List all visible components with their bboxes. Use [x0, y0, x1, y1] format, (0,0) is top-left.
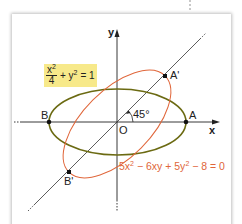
- x-axis-label: x: [209, 125, 215, 136]
- coordinate-diagram: [0, 0, 242, 224]
- y-axis-label: y: [108, 27, 114, 38]
- angle-label: 45°: [133, 109, 150, 120]
- point-A: [184, 120, 189, 125]
- fraction: x2 4: [46, 65, 57, 86]
- label-A-prime: A': [170, 70, 179, 81]
- label-B-prime: B': [64, 176, 73, 187]
- equation-ellipse-2: 5x2 − 6xy + 5y2 − 8 = 0: [119, 160, 225, 172]
- origin-label: O: [119, 125, 128, 136]
- label-B: B: [41, 110, 48, 121]
- point-A-prime: [163, 74, 167, 78]
- label-A: A: [189, 110, 196, 121]
- point-B-prime: [67, 170, 71, 174]
- y-axis-arrow-icon: [115, 29, 120, 37]
- equation-ellipse-1: x2 4 + y2 = 1: [44, 64, 97, 87]
